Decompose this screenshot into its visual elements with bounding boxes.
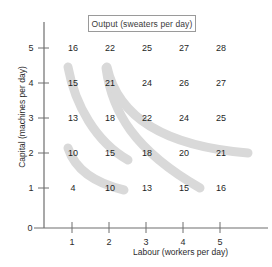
data-cell-k3-l4: 24 bbox=[179, 113, 189, 123]
y-axis-title: Capital (machines per day) bbox=[17, 57, 27, 177]
x-tick-label-0: 0 bbox=[27, 223, 32, 233]
y-tick-label-2: 2 bbox=[28, 148, 33, 158]
y-tick-label-4: 4 bbox=[28, 78, 33, 88]
data-cell-k5-l5: 28 bbox=[216, 43, 226, 53]
data-cell-k5-l2: 22 bbox=[105, 43, 115, 53]
data-cell-k3-l2: 18 bbox=[105, 113, 115, 123]
data-cell-k5-l3: 25 bbox=[142, 43, 152, 53]
data-cell-k4-l3: 24 bbox=[142, 78, 152, 88]
x-axis-title: Labour (workers per day) bbox=[133, 247, 228, 257]
x-tick-label-5: 5 bbox=[217, 237, 222, 247]
chart-title-box: Output (sweaters per day) bbox=[88, 15, 196, 32]
x-tick-label-4: 4 bbox=[180, 237, 185, 247]
data-cell-k5-l1: 16 bbox=[68, 43, 78, 53]
chart-title: Output (sweaters per day) bbox=[92, 19, 193, 29]
x-tick-label-1: 1 bbox=[69, 237, 74, 247]
isoquant-chart: Output (sweaters per day) Labour (worker… bbox=[0, 0, 272, 267]
y-tick-label-1: 1 bbox=[28, 183, 33, 193]
data-cell-k1-l3: 13 bbox=[142, 183, 152, 193]
data-cell-k5-l4: 27 bbox=[179, 43, 189, 53]
data-cell-k1-l1: 4 bbox=[70, 183, 75, 193]
data-cell-k2-l2: 15 bbox=[105, 148, 115, 158]
data-cell-k3-l3: 22 bbox=[142, 113, 152, 123]
x-tick-label-3: 3 bbox=[143, 237, 148, 247]
x-tick-label-2: 2 bbox=[106, 237, 111, 247]
data-cell-k1-l2: 10 bbox=[105, 183, 115, 193]
data-cell-k2-l5: 21 bbox=[216, 148, 226, 158]
data-cell-k4-l1: 15 bbox=[68, 78, 78, 88]
plot-area bbox=[0, 0, 272, 267]
y-tick-label-5: 5 bbox=[28, 43, 33, 53]
data-cell-k1-l5: 16 bbox=[216, 183, 226, 193]
data-cell-k4-l5: 27 bbox=[216, 78, 226, 88]
data-cell-k3-l5: 25 bbox=[216, 113, 226, 123]
data-cell-k3-l1: 13 bbox=[68, 113, 78, 123]
isoquant-21-upper-band bbox=[107, 67, 248, 153]
data-cell-k2-l4: 20 bbox=[179, 148, 189, 158]
data-cell-k1-l4: 15 bbox=[179, 183, 189, 193]
data-cell-k2-l1: 10 bbox=[68, 148, 78, 158]
data-cell-k2-l3: 18 bbox=[142, 148, 152, 158]
data-cell-k4-l2: 21 bbox=[105, 78, 115, 88]
data-cell-k4-l4: 26 bbox=[179, 78, 189, 88]
y-tick-label-3: 3 bbox=[28, 113, 33, 123]
